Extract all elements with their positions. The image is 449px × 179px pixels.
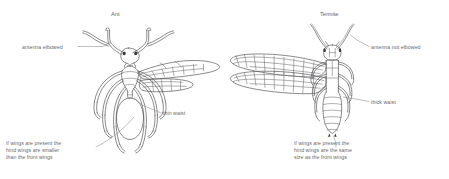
- termite-abdomen-icon: [323, 92, 342, 137]
- termite-wings-label: if wings are present the hind wings are …: [294, 140, 352, 162]
- ant-waist-label: thin waist: [163, 110, 185, 117]
- leader-termite-waist: [343, 97, 369, 102]
- termite-illustration: [231, 24, 354, 137]
- termite-head-icon: [323, 42, 341, 61]
- ant-abdomen-icon: [117, 98, 144, 140]
- ant-wings-label: if wings are present the hind wings are …: [6, 140, 61, 162]
- leader-termite-antenna: [351, 35, 370, 47]
- ant-head-icon: [121, 48, 139, 67]
- leader-ant-wings: [96, 117, 134, 147]
- diagram-illustration: [0, 0, 449, 179]
- insect-comparison-diagram: Ant Termite antenna elbowed thin waist i…: [0, 0, 449, 179]
- termite-antenna-label: antenna not elbowed: [371, 44, 421, 51]
- ant-title: Ant: [111, 11, 119, 18]
- termite-right-antenna-icon: [336, 24, 354, 49]
- ant-right-antenna-icon: [133, 28, 151, 55]
- termite-left-antenna-icon: [311, 24, 329, 49]
- ant-illustration: [83, 28, 220, 153]
- ant-left-antenna-scape-icon: [83, 31, 109, 46]
- termite-thorax-icon: [326, 60, 338, 92]
- ant-right-antenna-scape-icon: [148, 31, 174, 46]
- ant-antenna-label: antenna elbowed: [22, 44, 63, 51]
- ant-legs-icon: [94, 71, 166, 153]
- termite-waist-label: thick waist: [371, 99, 396, 106]
- termite-leader-lines: [334, 35, 370, 147]
- ant-wings-icon: [139, 60, 220, 91]
- termite-title: Termite: [320, 11, 338, 18]
- ant-left-antenna-icon: [106, 28, 124, 55]
- ant-waist-icon: [127, 92, 132, 98]
